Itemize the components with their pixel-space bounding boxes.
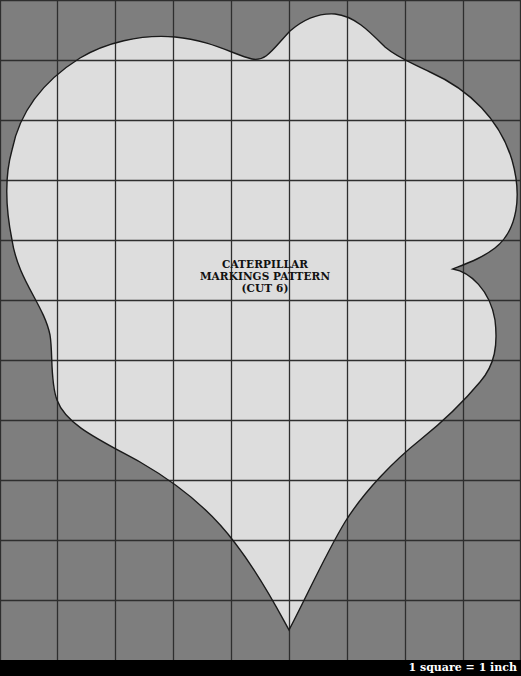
scale-note: 1 square = 1 inch bbox=[408, 661, 517, 675]
pattern-sheet bbox=[0, 0, 521, 660]
footer-bar: 1 square = 1 inch bbox=[0, 660, 521, 676]
pattern-cut-count: (CUT 6) bbox=[190, 282, 340, 294]
pattern-title-line-2: MARKINGS PATTERN bbox=[190, 270, 340, 282]
pattern-title-line-1: CATERPILLAR bbox=[190, 258, 340, 270]
pattern-label: CATERPILLAR MARKINGS PATTERN (CUT 6) bbox=[190, 258, 340, 294]
